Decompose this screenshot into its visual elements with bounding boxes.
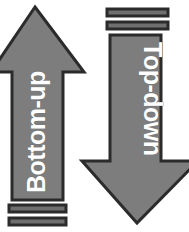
arrow-bottom-up-stripe-1 bbox=[9, 205, 66, 212]
arrow-top-down-shape bbox=[82, 35, 189, 223]
arrow-bottom-up[interactable]: Bottom-up bbox=[0, 7, 84, 225]
arrow-top-down[interactable]: Top-down bbox=[82, 9, 189, 223]
arrow-bottom-up-label: Bottom-up bbox=[22, 71, 50, 193]
arrow-bottom-up-stripe-2 bbox=[9, 218, 66, 225]
arrow-top-down-stripe-1 bbox=[107, 9, 168, 16]
diagram-canvas: Bottom-up Top-down bbox=[0, 0, 189, 232]
arrow-top-down-stripe-2 bbox=[107, 22, 168, 29]
arrow-top-down-label: Top-down bbox=[139, 42, 167, 156]
